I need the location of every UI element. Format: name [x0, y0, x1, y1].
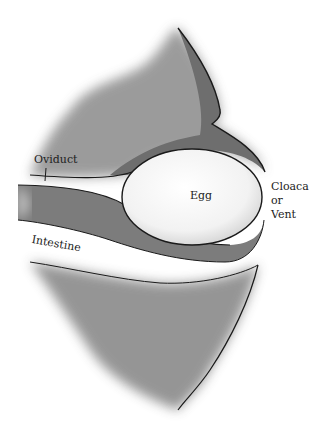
label-egg: Egg	[190, 189, 212, 202]
lower-tissue	[30, 262, 258, 410]
label-vent: Vent	[271, 208, 296, 221]
label-oviduct: Oviduct	[34, 153, 77, 166]
label-or: or	[271, 194, 283, 207]
label-cloaca: Cloaca	[271, 180, 309, 193]
diagram-canvas: Oviduct Egg Cloaca or Vent Intestine	[0, 0, 325, 436]
